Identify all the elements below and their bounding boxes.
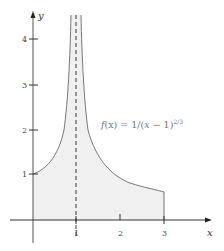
x-tick-label-3: 3 bbox=[162, 229, 167, 238]
y-tick-label-2: 2 bbox=[22, 126, 27, 135]
function-label: f(x) = 1/(x − 1)2/3 bbox=[100, 118, 183, 130]
y-tick-label-3: 3 bbox=[22, 81, 27, 90]
x-axis-arrow-icon bbox=[205, 218, 212, 223]
shaded-region bbox=[33, 15, 164, 220]
y-axis-arrow-icon bbox=[31, 11, 36, 18]
y-tick-label-4: 4 bbox=[22, 35, 27, 44]
x-tick-label-1: 1 bbox=[74, 229, 79, 238]
x-tick-label-2: 2 bbox=[118, 229, 123, 238]
x-axis-label: x bbox=[207, 227, 213, 238]
y-tick-label-1: 1 bbox=[22, 170, 27, 179]
y-axis-label: y bbox=[37, 10, 44, 21]
chart-canvas: 1 2 3 4 1 2 3 y x f(x) = 1/(x − 1)2/3 bbox=[0, 0, 224, 251]
